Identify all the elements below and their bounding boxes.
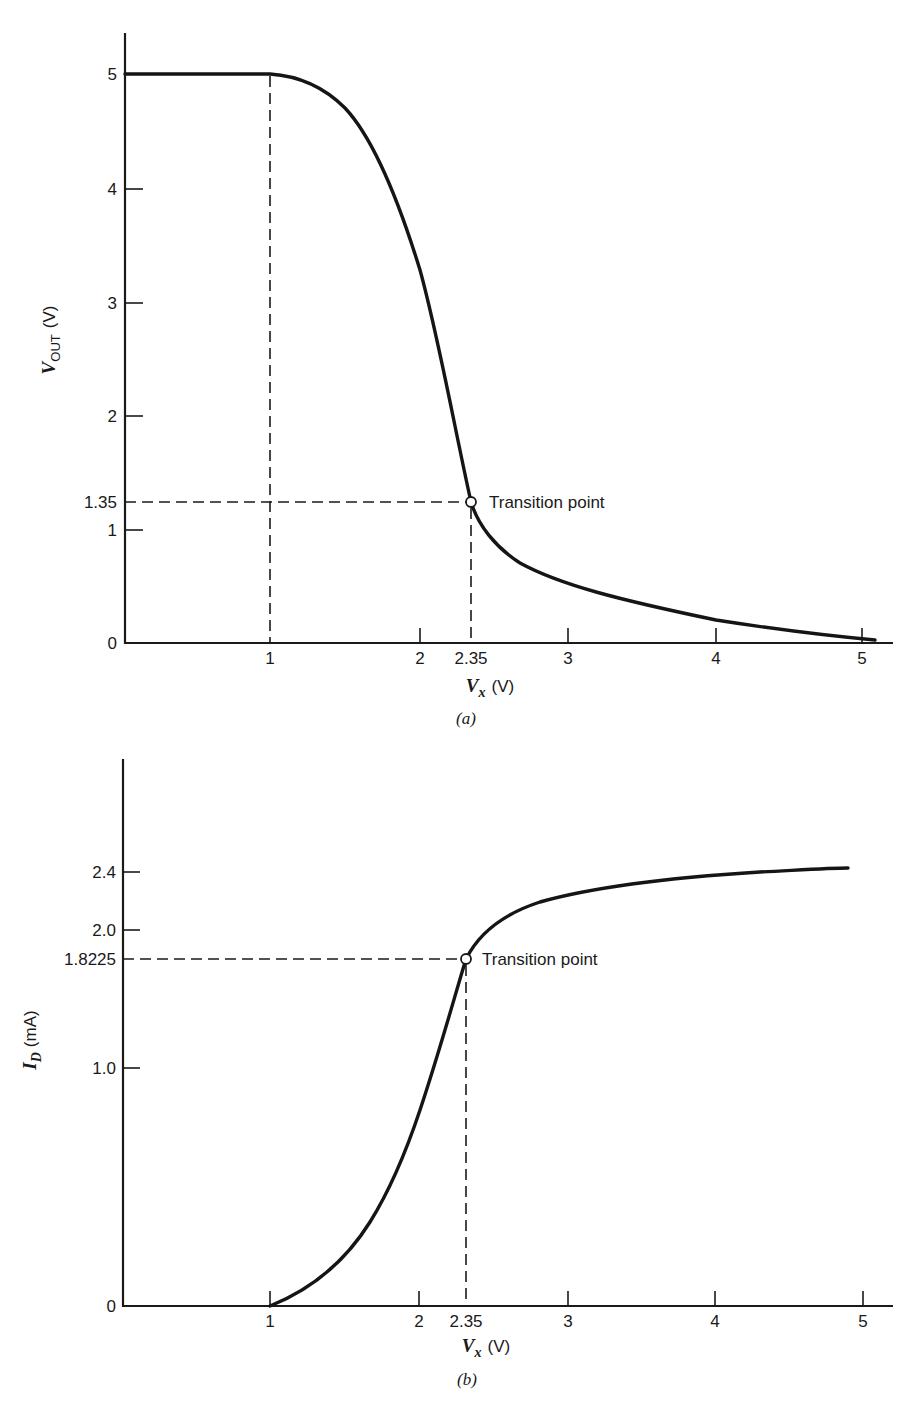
ytick-label-b: 1.8225 [64, 950, 116, 969]
xtick-label-b: 1 [265, 1312, 274, 1331]
panel-b: 2.4 2.0 1.8225 1.0 0 1 2 2.35 3 4 5 Tran… [19, 759, 893, 1389]
xtick-label-a: 2.35 [454, 649, 487, 668]
y-axis-label-a: VOUT(V) [38, 306, 63, 375]
ytick-label-a: 5 [108, 65, 117, 84]
xtick-label-b: 5 [858, 1312, 867, 1331]
transition-point-marker-b [461, 954, 471, 964]
xtick-label-a: 1 [265, 649, 274, 668]
ytick-label-b: 0 [107, 1297, 116, 1316]
ytick-label-a: 2 [108, 407, 117, 426]
svg-text:ID(mA): ID(mA) [19, 1010, 44, 1070]
svg-text:VOUT(V): VOUT(V) [38, 306, 63, 375]
caption-a: (a) [456, 709, 476, 728]
xtick-label-a: 5 [857, 649, 866, 668]
transition-point-label-b: Transition point [482, 950, 598, 969]
ytick-label-a: 0 [108, 634, 117, 653]
ytick-label-a: 1 [108, 521, 117, 540]
vout-curve [125, 74, 875, 640]
x-axis-label-b: Vx(V) [462, 1335, 510, 1360]
ytick-label-b: 2.4 [92, 863, 116, 882]
ytick-label-b: 1.0 [92, 1059, 116, 1078]
x-axis-label-a: Vx(V) [466, 675, 514, 700]
transition-point-marker-a [466, 497, 476, 507]
ytick-label-a: 4 [108, 180, 117, 199]
ytick-label-b: 2.0 [92, 921, 116, 940]
figure-canvas: 5 4 3 2 1.35 1 0 1 2 2.35 3 4 5 Transiti… [0, 0, 919, 1410]
xtick-label-b: 4 [710, 1312, 719, 1331]
xtick-label-a: 3 [563, 649, 572, 668]
ytick-label-a: 1.35 [84, 493, 117, 512]
transition-point-label-a: Transition point [489, 493, 605, 512]
xtick-label-b: 2 [414, 1312, 423, 1331]
xtick-label-b: 3 [563, 1312, 572, 1331]
caption-b: (b) [457, 1370, 477, 1389]
xtick-label-a: 2 [415, 649, 424, 668]
id-curve [270, 868, 848, 1306]
xtick-label-a: 4 [711, 649, 720, 668]
ytick-label-a: 3 [108, 294, 117, 313]
y-axis-label-b: ID(mA) [19, 1010, 44, 1070]
xtick-label-b: 2.35 [449, 1312, 482, 1331]
panel-a: 5 4 3 2 1.35 1 0 1 2 2.35 3 4 5 Transiti… [38, 33, 893, 728]
